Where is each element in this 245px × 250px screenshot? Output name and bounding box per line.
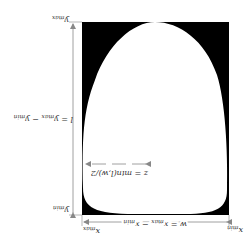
width-formula: w = xmax − xmin: [123, 219, 187, 229]
bounding-box-diagram: ymax ymin l = ymax − ymin xmax xmin w = …: [0, 0, 245, 250]
ymin-label: ymin: [53, 205, 70, 215]
height-formula: l = ymax − ymin: [14, 114, 73, 124]
xmax-label: xmax: [82, 226, 100, 236]
xmin-label: xmin: [227, 225, 243, 235]
ymax-label: ymax: [51, 15, 70, 25]
z-formula: z = min(l,w)/2: [91, 169, 149, 178]
